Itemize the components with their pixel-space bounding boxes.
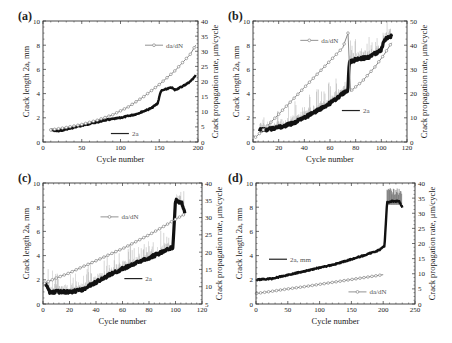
y-tick-label: 4 <box>250 252 254 260</box>
legend-entry: 2a <box>111 130 139 138</box>
y-tick-label: 4 <box>37 252 41 260</box>
y2-tick-label: 0 <box>418 301 422 309</box>
x-tick-label: 0 <box>41 306 45 314</box>
y2-axis-title: Crack propagation rate, μm/cycle <box>214 186 224 300</box>
chart-panel-b: 020406080100120024681001020304050Cycle n… <box>228 9 429 164</box>
x-tick-label: 0 <box>251 144 255 152</box>
y-tick-label: 10 <box>33 18 41 26</box>
y2-tick-label: 10 <box>201 108 209 116</box>
y-axis-title: Crack length 2a, mm <box>21 45 31 117</box>
x-tick-label: 80 <box>146 306 154 314</box>
y2-tick-label: 10 <box>205 283 213 291</box>
y-tick-label: 2 <box>37 276 41 284</box>
y2-tick-label: 15 <box>201 93 209 101</box>
y2-tick-label: 30 <box>418 210 426 218</box>
legend-entry: da/dN <box>300 37 338 45</box>
y2-tick-label: 10 <box>418 270 426 278</box>
panel-label: (a) <box>18 9 32 23</box>
y2-tick-label: 0 <box>410 139 414 147</box>
y2-tick-label: 35 <box>418 195 426 203</box>
legend-entry: 2a, mm <box>269 256 312 264</box>
legend-entry: da/dN <box>145 42 183 50</box>
x-tick-label: 100 <box>170 306 181 314</box>
y-axis-title: Crack length 2a, mm <box>231 45 241 117</box>
y2-tick-label: 35 <box>201 33 209 41</box>
y2-tick-label: 15 <box>418 255 426 263</box>
y2-tick-label: 40 <box>410 42 418 50</box>
x-axis-title: Cycle number <box>99 316 147 326</box>
y-tick-label: 0 <box>37 301 41 309</box>
figure-svg: 05010015020002468100510152025303540Cycle… <box>0 0 452 343</box>
legend-circle-marker-icon <box>108 215 111 218</box>
x-tick-label: 0 <box>254 306 258 314</box>
legend-entry: 2a <box>342 107 371 115</box>
svg-text:da/dN: da/dN <box>369 288 386 296</box>
y-tick-label: 0 <box>247 139 251 147</box>
x-tick-label: 100 <box>376 144 387 152</box>
panel-label: (d) <box>228 171 243 185</box>
x-tick-label: 60 <box>327 144 335 152</box>
x-axis-title: Cycle number <box>306 154 354 164</box>
legend-circle-marker-icon <box>153 44 156 47</box>
panel-label: (c) <box>18 171 31 185</box>
x-tick-label: 60 <box>119 306 127 314</box>
y2-tick-label: 40 <box>201 18 209 26</box>
x-tick-label: 100 <box>115 144 126 152</box>
y-tick-label: 0 <box>250 301 254 309</box>
y2-tick-label: 10 <box>410 114 418 122</box>
x-tick-label: 50 <box>284 306 292 314</box>
y2-tick-label: 30 <box>205 214 213 222</box>
y2-tick-label: 0 <box>201 139 205 147</box>
y-tick-label: 4 <box>247 90 251 98</box>
x-axis-title: Cycle number <box>312 316 360 326</box>
y2-tick-label: 20 <box>410 90 418 98</box>
legend-entry: da/dN <box>101 213 139 221</box>
x-tick-label: 80 <box>352 144 360 152</box>
x-tick-label: 100 <box>314 306 325 314</box>
x-axis-title: Cycle number <box>97 154 145 164</box>
x-tick-label: 150 <box>346 306 357 314</box>
y2-tick-label: 30 <box>201 48 209 56</box>
y2-tick-label: 20 <box>418 240 426 248</box>
x-tick-label: 20 <box>66 306 74 314</box>
y-axis-title: Crack length 2a, mm <box>234 207 244 279</box>
y-axis-title: Crack length 2a, mm <box>21 207 31 279</box>
y-tick-label: 8 <box>37 42 41 50</box>
y-tick-label: 0 <box>37 139 41 147</box>
chart-panel-c: 0204060801001200246810510152025303540Cyc… <box>18 171 224 326</box>
x-tick-label: 150 <box>154 144 165 152</box>
x-tick-label: 0 <box>41 144 45 152</box>
chart-panel-a: 05010015020002468100510152025303540Cycle… <box>18 9 220 164</box>
svg-text:da/dN: da/dN <box>166 42 183 50</box>
y-tick-label: 10 <box>246 180 254 188</box>
y2-tick-label: 5 <box>205 301 209 309</box>
y-tick-label: 10 <box>33 180 41 188</box>
svg-text:da/dN: da/dN <box>122 213 139 221</box>
legend-circle-marker-icon <box>308 39 311 42</box>
y-tick-label: 8 <box>250 204 254 212</box>
y2-axis-title: Crack propagation rate, μm/cycle <box>427 186 437 300</box>
y-tick-label: 6 <box>37 228 41 236</box>
y2-tick-label: 20 <box>201 78 209 86</box>
y2-tick-label: 15 <box>205 266 213 274</box>
panel-label: (b) <box>228 9 243 23</box>
legend-entry: da/dN <box>348 288 386 296</box>
y2-tick-label: 5 <box>418 285 422 293</box>
x-tick-label: 50 <box>78 144 86 152</box>
y2-axis-title: Crack propagation rate, μm/cycle <box>419 24 429 138</box>
y-tick-label: 8 <box>247 42 251 50</box>
y-tick-label: 6 <box>247 66 251 74</box>
x-tick-label: 40 <box>301 144 309 152</box>
svg-text:2a: 2a <box>145 275 153 283</box>
chart-panel-d: 05010015020025002468100510152025303540Cy… <box>228 171 437 326</box>
y2-tick-label: 25 <box>205 231 213 239</box>
x-tick-label: 40 <box>93 306 101 314</box>
y2-tick-label: 40 <box>418 180 426 188</box>
y-tick-label: 8 <box>37 204 41 212</box>
y-tick-label: 2 <box>247 114 251 122</box>
y2-tick-label: 50 <box>410 18 418 26</box>
series-crack-length <box>257 188 403 280</box>
svg-text:2a, mm: 2a, mm <box>290 256 312 264</box>
svg-text:2a: 2a <box>363 107 371 115</box>
x-tick-label: 200 <box>378 306 389 314</box>
